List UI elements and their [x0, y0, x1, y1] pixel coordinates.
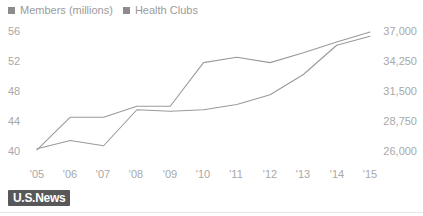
legend-item-health-clubs[interactable]: Health Clubs — [123, 4, 198, 17]
x-axis-tick-2: '07 — [96, 168, 110, 180]
chart-container: Members (millions) Health Clubs 56 52 48… — [0, 0, 423, 216]
x-axis-tick-5: '10 — [196, 168, 210, 180]
chart-legend: Members (millions) Health Clubs — [8, 4, 198, 17]
us-news-logo-text: U.S.News — [13, 192, 65, 204]
x-axis-tick-8: '13 — [296, 168, 310, 180]
legend-item-members[interactable]: Members (millions) — [8, 4, 113, 17]
line-series-health-clubs — [37, 32, 370, 150]
x-axis-tick-1: '06 — [63, 168, 77, 180]
x-axis-tick-0: '05 — [30, 168, 44, 180]
x-axis-tick-4: '09 — [163, 168, 177, 180]
plot-area — [0, 20, 423, 170]
us-news-logo[interactable]: U.S.News — [8, 190, 70, 206]
x-axis-tick-7: '12 — [263, 168, 277, 180]
legend-label-members: Members (millions) — [20, 4, 113, 17]
x-axis-tick-10: '15 — [363, 168, 377, 180]
x-axis: '05 '06 '07 '08 '09 '10 '11 '12 '13 '14 … — [0, 168, 423, 182]
footer-divider — [0, 212, 423, 213]
x-axis-tick-6: '11 — [229, 168, 243, 180]
square-marker-icon — [123, 7, 130, 14]
x-axis-tick-3: '08 — [129, 168, 143, 180]
line-series-members — [37, 36, 370, 149]
x-axis-tick-9: '14 — [330, 168, 344, 180]
square-marker-icon — [8, 7, 15, 14]
legend-label-health-clubs: Health Clubs — [135, 4, 198, 17]
plot-svg — [0, 20, 423, 170]
